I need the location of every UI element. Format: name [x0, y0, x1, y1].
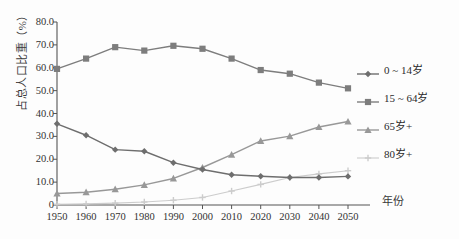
series-3 [54, 167, 351, 207]
legend-marker-square-icon [356, 94, 380, 106]
legend-marker-triangle-icon [356, 122, 380, 134]
series-marker [228, 172, 234, 178]
series-marker [258, 173, 264, 179]
legend-item-2[interactable]: 65岁+ [356, 116, 456, 144]
series-marker [287, 174, 293, 180]
series-marker [199, 46, 205, 52]
series-marker [170, 159, 176, 165]
series-marker [316, 80, 322, 86]
series-marker [228, 151, 235, 158]
series-marker [199, 166, 205, 172]
chart-legend: 0 ~ 14岁15 ~ 64岁65岁+80岁+ [356, 60, 456, 172]
series-marker [112, 146, 118, 152]
series-1 [54, 43, 351, 92]
series-marker [112, 44, 118, 50]
legend-marker-cross-icon [356, 150, 380, 162]
legend-marker [365, 71, 371, 77]
series-marker [344, 118, 351, 125]
legend-item-3[interactable]: 80岁+ [356, 144, 456, 172]
series-line [57, 122, 348, 194]
series-marker [83, 56, 89, 62]
series-marker [316, 174, 322, 180]
series-marker [54, 66, 60, 72]
legend-marker [365, 99, 371, 105]
legend-item-0[interactable]: 0 ~ 14岁 [356, 60, 456, 88]
series-marker [345, 85, 351, 91]
series-marker [345, 173, 351, 179]
series-marker [83, 132, 89, 138]
legend-label: 0 ~ 14岁 [384, 62, 423, 78]
series-line [57, 46, 348, 89]
legend-item-1[interactable]: 15 ~ 64岁 [356, 88, 456, 116]
legend-marker-diamond-icon [356, 66, 380, 78]
series-marker [170, 43, 176, 49]
series-0 [54, 121, 351, 181]
series-2 [53, 118, 351, 197]
legend-label: 80岁+ [384, 146, 412, 162]
series-marker [229, 56, 235, 62]
series-marker [258, 67, 264, 73]
series-marker [141, 47, 147, 53]
legend-label: 65岁+ [384, 118, 412, 134]
series-marker [141, 148, 147, 154]
series-marker [54, 121, 60, 127]
chart-figure: 占总人口比重（%） 80.070.060.050.040.030.020.010… [0, 0, 459, 239]
series-marker [287, 71, 293, 77]
legend-label: 15 ~ 64岁 [384, 90, 428, 106]
